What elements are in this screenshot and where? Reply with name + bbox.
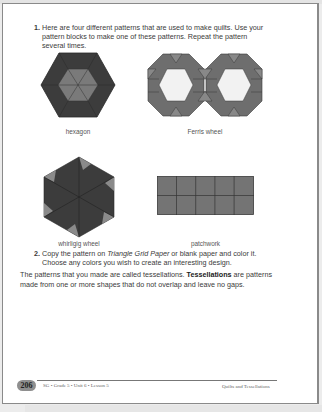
ferris-wheel-label: Ferris wheel (146, 128, 264, 135)
page-number-badge: 206 (17, 380, 36, 391)
tessellation-definition: The patterns that you made are called te… (20, 270, 290, 289)
footer-lesson-info: SG • Grade 5 • Unit 6 • Lesson 5 (43, 383, 109, 388)
whirligig-wheel-pattern (43, 156, 115, 238)
tessellations-term: Tessellations (187, 270, 232, 279)
whirligig-wheel-label: whirligig wheel (39, 240, 119, 247)
footer-lesson-title: Quilts and Tessellations (222, 384, 270, 389)
hexagon-pattern (40, 52, 116, 118)
patchwork-label: patchwork (157, 240, 254, 247)
footer-rule (37, 380, 277, 381)
question-2-text: Copy the pattern on Triangle Grid Paper … (42, 249, 274, 267)
patchwork-pattern (157, 176, 254, 215)
hexagon-label: hexagon (40, 128, 116, 135)
ferris-wheel-pattern (146, 52, 264, 118)
question-1-number: 1. (34, 23, 40, 32)
question-1-text: Here are four different patterns that ar… (42, 23, 270, 50)
bottom-edge (25, 405, 322, 412)
question-2-number: 2. (34, 249, 40, 258)
